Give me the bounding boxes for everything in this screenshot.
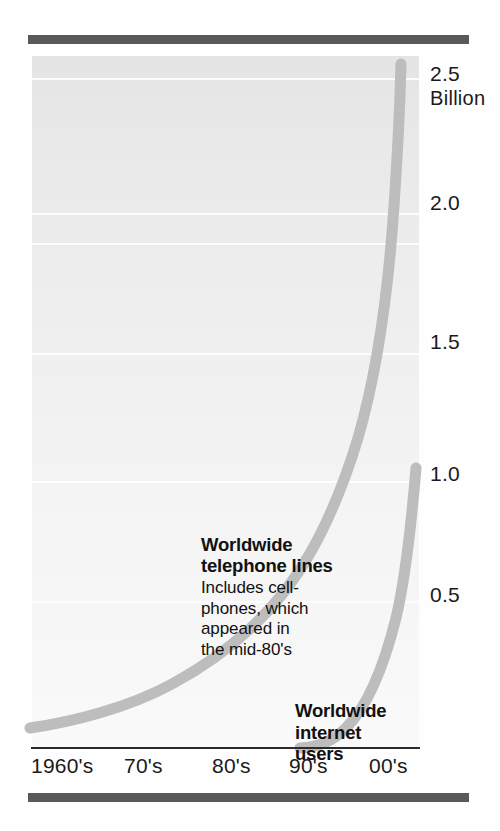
annotation-telephone-body-line3: appeared in [201,619,290,638]
plot-area: Worldwide telephone lines Includes cell-… [32,56,419,748]
x-axis-label-00s: 00's [369,754,408,778]
x-axis-label-80s: 80's [212,754,251,778]
x-axis-line [31,747,420,749]
y-axis-label-0-5: 0.5 [430,583,460,607]
annotation-internet-line2: internet [295,722,361,743]
annotation-telephone-title-line1: Worldwide [201,534,292,555]
chart-figure: Worldwide telephone lines Includes cell-… [0,0,500,831]
x-axis-label-70s: 70's [124,754,163,778]
y-axis-label-1-5: 1.5 [430,330,460,354]
annotation-telephone-title-line2: telephone lines [201,555,333,576]
x-axis-label-90s: 90's [289,754,328,778]
annotation-internet-line1: Worldwide [295,700,386,721]
annotation-telephone-body-line1: Includes cell- [201,578,299,597]
annotation-telephone-lines: Worldwide telephone lines Includes cell-… [201,534,351,660]
y-axis-unit-billion: Billion [430,86,485,110]
y-axis-label-2-0: 2.0 [430,191,460,215]
annotation-telephone-title: Worldwide telephone lines [201,534,351,576]
annotation-telephone-body-line4: the mid-80's [201,640,292,659]
x-axis-label-1960s: 1960's [31,754,93,778]
annotation-telephone-body: Includes cell- phones, which appeared in… [201,578,351,660]
y-axis-label-1-0: 1.0 [430,462,460,486]
bottom-rule [28,793,469,802]
annotation-telephone-body-line2: phones, which [201,599,308,618]
y-axis-label-2-5: 2.5 Billion [430,62,485,110]
y-axis-label-2-5-value: 2.5 [430,62,460,85]
top-rule [28,35,469,44]
